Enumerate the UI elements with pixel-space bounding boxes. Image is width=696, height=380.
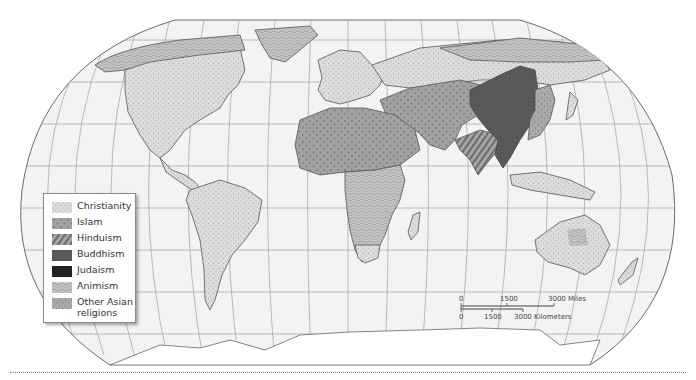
buddhism-swatch-icon bbox=[52, 250, 72, 261]
legend-label: Islam bbox=[77, 216, 102, 227]
legend-label: Animism bbox=[77, 280, 118, 291]
legend-item-islam: Islam bbox=[52, 216, 135, 232]
legend-label: Judaism bbox=[77, 264, 115, 275]
legend-item-buddhism: Buddhism bbox=[52, 248, 135, 264]
legend-item-christianity: Christianity bbox=[52, 200, 135, 216]
legend-label-line1: Other Asian bbox=[77, 296, 133, 307]
legend-item-judaism: Judaism bbox=[52, 264, 135, 280]
dotted-divider bbox=[10, 372, 686, 373]
scale-km-3000: 3000 Kilometers bbox=[514, 313, 572, 321]
scale-km-0: 0 bbox=[459, 313, 463, 321]
legend-label-line2: religions bbox=[77, 307, 117, 318]
islam-swatch-icon bbox=[52, 218, 72, 229]
legend-item-hinduism: Hinduism bbox=[52, 232, 135, 248]
legend: Christianity Islam Hinduism Buddhism Jud… bbox=[43, 193, 136, 323]
hinduism-swatch-icon bbox=[52, 234, 72, 245]
legend-item-animism: Animism bbox=[52, 280, 135, 296]
other-asian-religions-swatch-icon bbox=[52, 298, 72, 309]
world-religions-map: 0 1500 3000 Miles 0 1500 3000 Kilometers bbox=[0, 0, 696, 380]
legend-label: Other Asian religions bbox=[77, 296, 133, 318]
christianity-swatch-icon bbox=[52, 202, 72, 213]
legend-label: Hinduism bbox=[77, 232, 122, 243]
judaism-swatch-icon bbox=[52, 266, 72, 277]
animism-swatch-icon bbox=[52, 282, 72, 293]
legend-item-other-asian-religions: Other Asian religions bbox=[52, 296, 135, 322]
scale-miles-3000: 3000 Miles bbox=[548, 295, 586, 303]
scale-miles-0: 0 bbox=[459, 295, 463, 303]
region-australia-interior bbox=[567, 228, 588, 246]
scale-miles-1500: 1500 bbox=[500, 295, 518, 303]
legend-label: Christianity bbox=[77, 200, 131, 211]
scale-km-1500: 1500 bbox=[484, 313, 502, 321]
legend-label: Buddhism bbox=[77, 248, 124, 259]
